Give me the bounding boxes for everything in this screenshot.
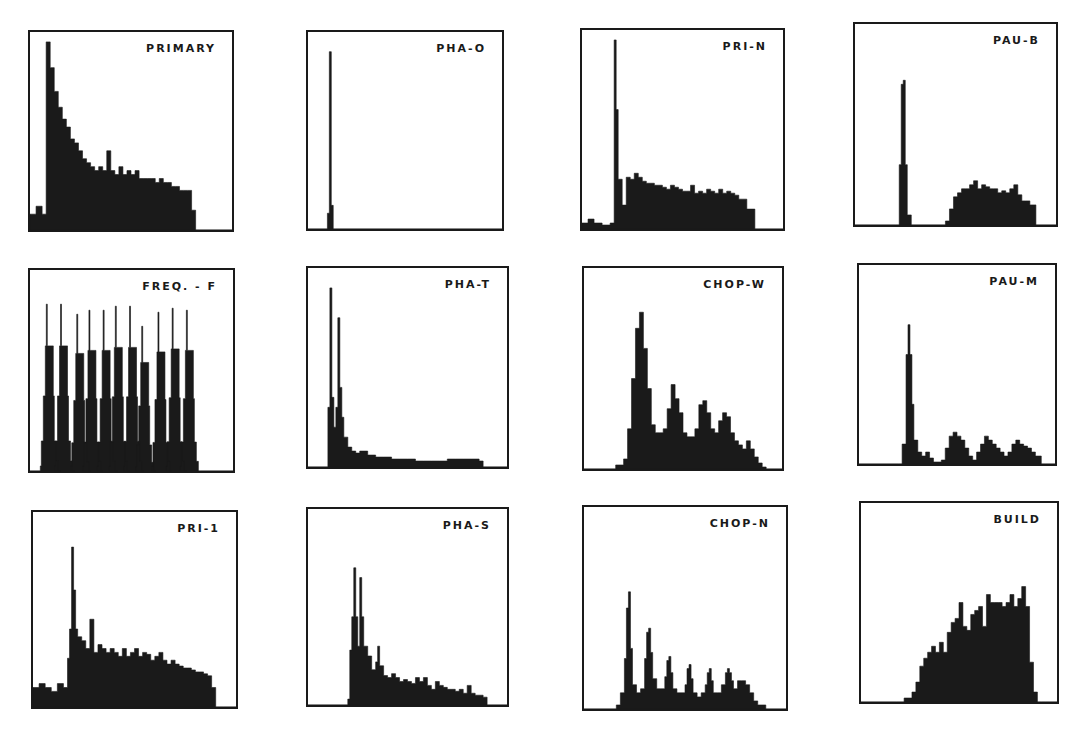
histogram-plot [861, 503, 1057, 702]
histogram-panel-pau-m: PAU-M [857, 263, 1057, 466]
histogram-plot [308, 268, 507, 467]
histogram-panel-pha-o: PHA-O [306, 30, 504, 231]
histogram-panel-pri-1: PRI-1 [31, 510, 238, 709]
histogram-bars [308, 288, 507, 467]
histogram-plot [584, 507, 786, 709]
histogram-bars [859, 325, 1055, 464]
histogram-bars [30, 304, 233, 471]
histogram-plot [859, 265, 1055, 464]
histogram-plot [33, 512, 236, 707]
histogram-bars [855, 80, 1056, 225]
histogram-bars [582, 40, 783, 229]
histogram-plot [308, 32, 502, 229]
histogram-bars [308, 568, 507, 705]
histogram-bars [861, 587, 1057, 702]
histogram-plot [855, 24, 1056, 225]
histogram-panel-pri-n: PRI-N [580, 28, 785, 231]
histogram-bars [308, 52, 502, 229]
histogram-bars [30, 42, 232, 230]
histogram-panel-pha-s: PHA-S [306, 507, 509, 707]
histogram-plot [30, 32, 232, 230]
histogram-panel-chop-w: CHOP-W [582, 266, 784, 471]
histogram-bars [584, 312, 782, 469]
histogram-panel-chop-n: CHOP-N [582, 505, 788, 711]
histogram-panel-primary: PRIMARY [28, 30, 234, 232]
histogram-plot [30, 270, 233, 471]
histogram-bars [584, 592, 786, 709]
histogram-panel-build: BUILD [859, 501, 1059, 704]
histogram-panel-pau-b: PAU-B [853, 22, 1058, 227]
histogram-plot [308, 509, 507, 705]
histogram-bars [33, 547, 236, 707]
histogram-plot [582, 30, 783, 229]
histogram-plot [584, 268, 782, 469]
histogram-panel-freq-f: FREQ. - F [28, 268, 235, 473]
histogram-panel-pha-t: PHA-T [306, 266, 509, 469]
